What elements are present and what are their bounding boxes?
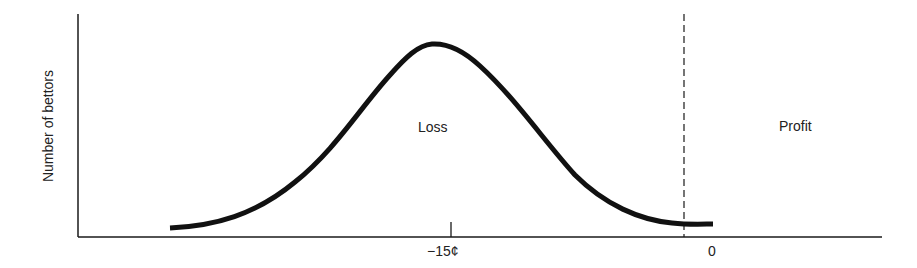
distribution-curve — [170, 44, 713, 228]
profit-region-label: Profit — [779, 118, 812, 134]
chart-canvas — [0, 0, 917, 268]
y-axis-label: Number of bettors — [40, 70, 56, 182]
loss-region-label: Loss — [418, 119, 448, 135]
x-tick-label-zero: 0 — [708, 243, 716, 259]
x-tick-label-minus15: −15¢ — [427, 243, 459, 259]
